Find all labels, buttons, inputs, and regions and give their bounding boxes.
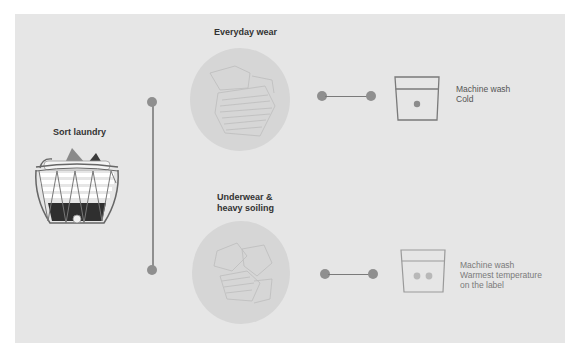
- branch2-node-right: [368, 269, 378, 279]
- branch1-instruction-line2: Cold: [456, 94, 473, 104]
- machine-wash-warm-icon: [399, 248, 447, 294]
- branch1-connector-line: [325, 96, 370, 98]
- vertical-connector-line: [152, 104, 154, 266]
- branch1-node-right: [366, 91, 376, 101]
- everyday-wear-heading: Everyday wear: [214, 27, 277, 38]
- underwear-pile-illustration: [192, 221, 290, 324]
- clothes-pile-illustration: [190, 48, 290, 151]
- underwear-heading-line1: Underwear &: [217, 192, 273, 203]
- branch2-instruction-line2: Warmest temperature: [460, 270, 542, 280]
- machine-wash-cold-icon: [393, 75, 441, 122]
- branch2-instruction-line1: Machine wash: [460, 260, 514, 270]
- sort-laundry-label: Sort laundry: [53, 127, 106, 138]
- branch2-connector-line: [328, 274, 372, 276]
- underwear-heading-line2: heavy soiling: [217, 203, 274, 214]
- branch2-instruction-line3: on the label: [460, 280, 504, 290]
- branch1-instruction-line1: Machine wash: [456, 84, 510, 94]
- connector-node-bottom: [147, 265, 157, 275]
- laundry-basket-icon: [30, 143, 124, 229]
